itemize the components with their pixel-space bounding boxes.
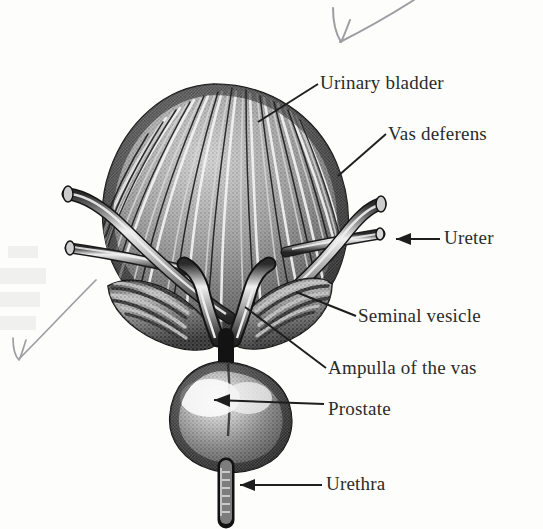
- leader-line-vas-deferens: [338, 134, 386, 176]
- pencil-arrow-left-annotation: [13, 280, 96, 360]
- figure-canvas: Urinary bladder Vas deferens Ureter Semi…: [0, 0, 543, 529]
- label-seminal-vesicle: Seminal vesicle: [358, 305, 481, 327]
- label-vas-deferens: Vas deferens: [388, 123, 487, 145]
- label-ureter: Ureter: [444, 227, 494, 249]
- urethra-structure: [221, 466, 230, 520]
- anatomy-illustration: [0, 0, 543, 529]
- label-urinary-bladder: Urinary bladder: [320, 72, 444, 94]
- label-prostate: Prostate: [328, 398, 391, 420]
- label-urethra: Urethra: [326, 473, 385, 495]
- label-ampulla-of-the-vas: Ampulla of the vas: [328, 357, 477, 379]
- leader-arrow-ureter: [396, 233, 440, 245]
- leader-arrow-urethra: [240, 479, 322, 491]
- pencil-arrow-top-annotation: [333, 0, 414, 42]
